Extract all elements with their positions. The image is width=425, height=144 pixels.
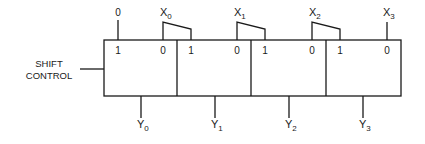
shift-control-label-2: CONTROL <box>26 70 72 81</box>
block2-pin0: 0 <box>309 45 315 56</box>
block0-pin0: 0 <box>160 45 166 56</box>
output-y0-label: Y0 <box>137 118 149 133</box>
output-y2-label: Y2 <box>285 118 297 133</box>
input-x0-label: X0 <box>160 6 172 21</box>
block1-pin0: 0 <box>234 45 240 56</box>
input-x1-wire <box>237 22 265 40</box>
constant-input-label: 0 <box>115 7 121 18</box>
block3-pin0: 0 <box>384 45 390 56</box>
block0-pin1: 1 <box>115 45 121 56</box>
input-x2-wire <box>312 22 340 40</box>
block1-pin1: 1 <box>188 45 194 56</box>
output-y3-label: Y3 <box>359 118 371 133</box>
input-x2-label: X2 <box>309 6 321 21</box>
shift-diagram: SHIFT CONTROL 0 X0 X1 X2 X3 1 0 1 0 1 0 … <box>0 0 425 144</box>
input-x3-label: X3 <box>383 6 395 21</box>
block3-pin1: 1 <box>337 45 343 56</box>
output-y1-label: Y1 <box>211 118 223 133</box>
input-x0-wire <box>163 22 191 40</box>
shift-control-label-1: SHIFT <box>35 58 63 69</box>
input-x1-label: X1 <box>234 6 246 21</box>
block2-pin1: 1 <box>262 45 268 56</box>
block-array-outline <box>104 40 401 96</box>
